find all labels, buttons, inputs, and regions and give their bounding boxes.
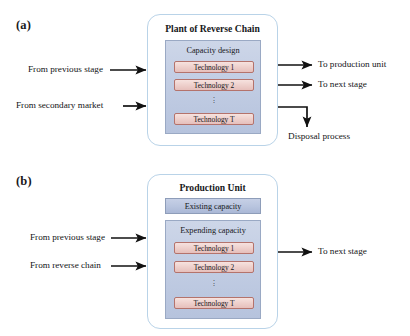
- technology-label: Technology T: [193, 115, 234, 124]
- vertical-ellipsis: ...: [174, 278, 254, 286]
- capacity-design-block: Capacity design Technology 1 Technology …: [165, 40, 261, 134]
- capacity-design-title: Capacity design: [166, 46, 260, 55]
- existing-capacity-label: Existing capacity: [185, 202, 242, 211]
- panel-a-output-label-2: Disposal process: [288, 131, 350, 141]
- technology-label: Technology 2: [194, 263, 234, 272]
- technology-item[interactable]: Technology 1: [174, 242, 254, 254]
- panel-a-input-label-1: From secondary market: [16, 100, 103, 110]
- panel-a: (a) From previous stage From secondary m…: [0, 0, 410, 168]
- technology-label: Technology 2: [194, 81, 234, 90]
- production-unit-box: Production Unit Existing capacity Expend…: [147, 174, 278, 329]
- technology-item[interactable]: Technology 2: [174, 261, 254, 273]
- panel-b: (b) From previous stage From reverse cha…: [0, 168, 410, 336]
- plant-of-reverse-chain-box: Plant of Reverse Chain Capacity design T…: [147, 14, 278, 146]
- technology-item[interactable]: Technology 1: [174, 61, 254, 73]
- technology-item[interactable]: Technology 2: [174, 79, 254, 91]
- existing-capacity-bar[interactable]: Existing capacity: [165, 198, 261, 214]
- vertical-ellipsis: ...: [174, 95, 254, 103]
- technology-item[interactable]: Technology T: [174, 113, 254, 125]
- panel-b-output-label-0: To next stage: [318, 246, 367, 256]
- panel-b-input-label-0: From previous stage: [30, 232, 105, 242]
- expending-capacity-block: Expending capacity Technology 1 Technolo…: [165, 220, 261, 319]
- technology-item[interactable]: Technology T: [174, 297, 254, 309]
- expending-capacity-title: Expending capacity: [166, 226, 260, 235]
- panel-a-input-label-0: From previous stage: [28, 64, 103, 74]
- technology-label: Technology T: [193, 299, 234, 308]
- panel-a-title: Plant of Reverse Chain: [148, 23, 277, 34]
- panel-a-output-label-0: To production unit: [318, 59, 386, 69]
- technology-label: Technology 1: [194, 244, 234, 253]
- panel-a-output-label-1: To next stage: [318, 79, 367, 89]
- panel-b-title: Production Unit: [148, 182, 277, 193]
- panel-b-input-label-1: From reverse chain: [30, 260, 101, 270]
- technology-label: Technology 1: [194, 63, 234, 72]
